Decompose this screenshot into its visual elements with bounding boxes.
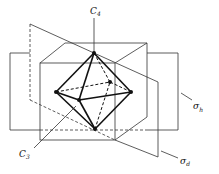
sigma-d-label: σd xyxy=(180,156,190,167)
c4-label: C4 xyxy=(90,6,101,17)
c3-label: C3 xyxy=(19,149,30,160)
sigma-h-plane xyxy=(10,53,178,130)
sigma-d-leader xyxy=(161,151,178,158)
octahedron-symmetry-diagram: C4 C3 σh σd xyxy=(0,0,219,174)
sigma-h-leader xyxy=(181,93,192,100)
sigma-h-label: σh xyxy=(193,101,203,113)
